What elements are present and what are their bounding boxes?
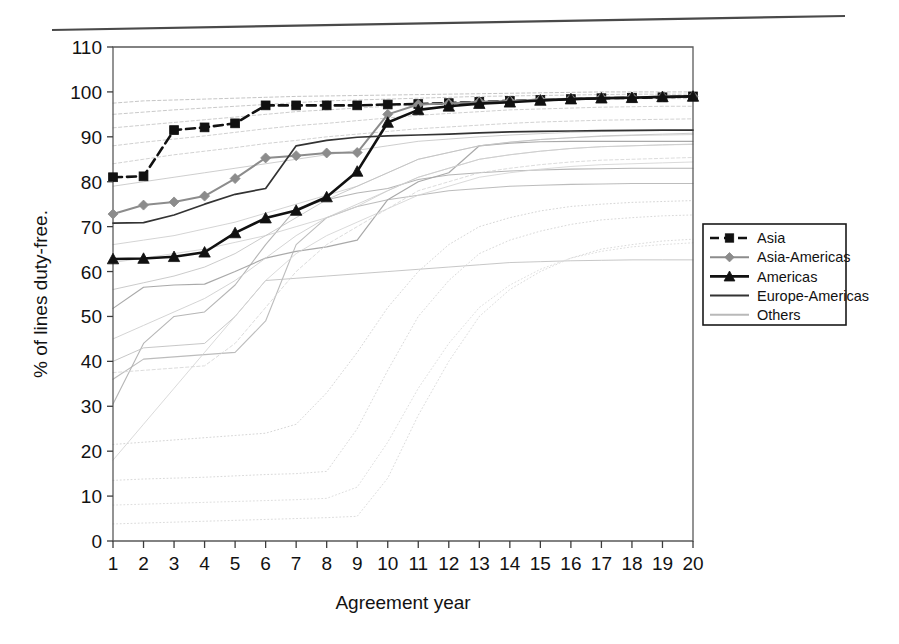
data-point-square bbox=[322, 101, 331, 110]
y-tick-label: 100 bbox=[70, 82, 102, 103]
y-tick-label: 110 bbox=[72, 37, 102, 58]
y-tick-label: 90 bbox=[81, 127, 102, 148]
data-point-square bbox=[231, 119, 240, 128]
x-axis-title: Agreement year bbox=[335, 592, 471, 613]
data-point-square bbox=[353, 101, 362, 110]
legend-marker-square bbox=[725, 234, 733, 242]
x-tick-label: 11 bbox=[408, 553, 428, 574]
x-tick-label: 18 bbox=[621, 553, 642, 574]
data-point-square bbox=[200, 123, 209, 132]
x-tick-label: 17 bbox=[591, 553, 612, 574]
chart-legend: AsiaAsia-AmericasAmericasEurope-Americas… bbox=[703, 224, 869, 325]
legend-label: Others bbox=[757, 307, 801, 323]
y-tick-label: 0 bbox=[91, 531, 102, 552]
y-tick-label: 30 bbox=[81, 396, 102, 417]
x-tick-label: 3 bbox=[169, 553, 180, 574]
x-tick-label: 5 bbox=[230, 553, 241, 574]
x-tick-label: 4 bbox=[199, 553, 210, 574]
legend-label: Europe-Americas bbox=[757, 288, 869, 304]
x-tick-label: 13 bbox=[469, 553, 490, 574]
y-tick-label: 50 bbox=[81, 306, 102, 327]
data-point-square bbox=[139, 172, 148, 181]
data-point-square bbox=[383, 100, 392, 109]
chart-figure: 0102030405060708090100110123456789101112… bbox=[0, 0, 899, 644]
y-tick-label: 70 bbox=[81, 217, 102, 238]
x-tick-label: 19 bbox=[652, 553, 673, 574]
data-point-square bbox=[292, 101, 301, 110]
legend-label: Asia bbox=[757, 230, 786, 246]
x-tick-label: 9 bbox=[352, 553, 363, 574]
x-tick-label: 14 bbox=[499, 553, 521, 574]
legend-label: Asia-Americas bbox=[757, 249, 850, 265]
legend-label: Americas bbox=[757, 269, 817, 285]
y-tick-label: 80 bbox=[81, 172, 102, 193]
x-tick-label: 6 bbox=[260, 553, 271, 574]
data-point-square bbox=[109, 173, 118, 182]
x-tick-label: 12 bbox=[438, 553, 459, 574]
x-tick-label: 15 bbox=[530, 553, 551, 574]
x-tick-label: 16 bbox=[560, 553, 581, 574]
x-tick-label: 1 bbox=[108, 553, 119, 574]
x-tick-label: 20 bbox=[682, 553, 703, 574]
x-tick-label: 7 bbox=[291, 553, 302, 574]
y-axis-title: % of lines duty-free. bbox=[30, 210, 51, 378]
data-point-square bbox=[261, 101, 270, 110]
x-tick-label: 2 bbox=[138, 553, 149, 574]
data-point-square bbox=[170, 126, 179, 135]
y-tick-label: 60 bbox=[81, 262, 102, 283]
x-tick-label: 8 bbox=[321, 553, 332, 574]
y-tick-label: 10 bbox=[81, 486, 102, 507]
y-tick-label: 40 bbox=[81, 351, 102, 372]
x-tick-label: 10 bbox=[377, 553, 398, 574]
y-tick-label: 20 bbox=[81, 441, 102, 462]
